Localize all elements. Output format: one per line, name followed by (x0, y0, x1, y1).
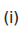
enumeration-label: (i) (0, 7, 22, 29)
